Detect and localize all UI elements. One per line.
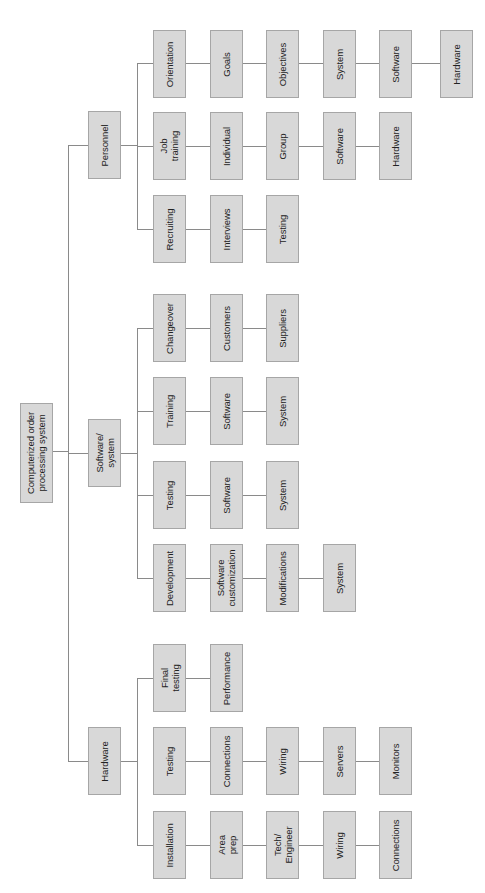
connector-line xyxy=(137,678,138,846)
node-label: Wiring xyxy=(334,832,345,858)
node-s-te-software: Software xyxy=(210,461,243,529)
node-h-testing: Testing xyxy=(153,727,186,795)
node-h-tech-engineer: Tech/ Engineer xyxy=(266,811,299,879)
node-label: System xyxy=(334,562,345,593)
node-s-d-system: System xyxy=(323,544,356,612)
node-label: System xyxy=(277,479,288,510)
node-label: Software xyxy=(390,46,401,83)
root-node: Computerized order processing system xyxy=(20,403,53,503)
node-p-j-hardware: Hardware xyxy=(379,112,412,180)
node-label: Goals xyxy=(221,52,232,76)
node-label: Suppliers xyxy=(277,309,288,348)
node-s-development: Development xyxy=(153,544,186,612)
node-p-group: Group xyxy=(266,112,299,180)
node-h-i-connections: Connections xyxy=(379,811,412,879)
connector-line xyxy=(186,678,210,679)
node-p-o-system: System xyxy=(323,30,356,98)
connector-line xyxy=(137,328,153,329)
node-h-area-prep: Area prep xyxy=(210,811,243,879)
node-p-j-software: Software xyxy=(323,112,356,180)
node-s-suppliers: Suppliers xyxy=(266,294,299,362)
connector-line xyxy=(137,845,153,846)
connector-line xyxy=(186,578,323,579)
node-h-i-wiring: Wiring xyxy=(323,811,356,879)
node-p-individual: Individual xyxy=(210,112,243,180)
node-p-recruiting: Recruiting xyxy=(153,195,186,263)
node-hardware: Hardware xyxy=(88,727,121,795)
node-label: Orientation xyxy=(164,41,175,86)
node-label: Software xyxy=(334,128,345,165)
node-s-testing: Testing xyxy=(153,461,186,529)
node-label: Performance xyxy=(221,651,232,704)
connector-line xyxy=(137,678,153,679)
node-label: Objectives xyxy=(277,42,288,85)
connector-line xyxy=(137,411,153,412)
node-label: Software xyxy=(221,393,232,430)
node-label: Final testing xyxy=(158,664,180,691)
root-node-label: Computerized order processing system xyxy=(26,412,48,494)
node-h-t-wiring: Wiring xyxy=(266,727,299,795)
connector-line xyxy=(137,578,153,579)
node-label: Changeover xyxy=(164,303,175,354)
node-label: System xyxy=(277,395,288,426)
connector-line xyxy=(121,145,137,146)
wbs-diagram: Computerized order processing system Per… xyxy=(0,0,485,893)
node-h-final-testing: Final testing xyxy=(153,644,186,712)
node-label: Group xyxy=(277,133,288,159)
node-p-goals: Goals xyxy=(210,30,243,98)
node-label: Connections xyxy=(390,819,401,871)
connector-line xyxy=(52,451,68,452)
node-s-te-system: System xyxy=(266,461,299,529)
node-label: Personnel xyxy=(99,124,110,166)
node-label: Testing xyxy=(164,480,175,509)
node-p-objectives: Objectives xyxy=(266,30,299,98)
node-p-o-software: Software xyxy=(379,30,412,98)
node-h-performance: Performance xyxy=(210,644,243,712)
node-label: Area prep xyxy=(215,835,237,855)
node-label: Job training xyxy=(158,131,180,161)
node-label: Wiring xyxy=(277,748,288,774)
connector-line xyxy=(137,495,153,496)
node-personnel: Personnel xyxy=(88,111,121,179)
node-label: Software customization xyxy=(216,550,238,607)
node-label: Software xyxy=(221,477,232,514)
node-label: Testing xyxy=(164,746,175,775)
node-label: Testing xyxy=(277,214,288,243)
node-p-job-training: Job training xyxy=(153,112,186,180)
node-label: Interviews xyxy=(221,208,232,250)
node-h-monitors: Monitors xyxy=(379,727,412,795)
node-s-changeover: Changeover xyxy=(153,294,186,362)
node-s-customers: Customers xyxy=(210,294,243,362)
connector-line xyxy=(68,453,88,454)
node-h-installation: Installation xyxy=(153,811,186,879)
connector-line xyxy=(121,453,137,454)
node-label: Hardware xyxy=(451,44,462,84)
node-software-system: Software/ system xyxy=(88,419,121,487)
node-label: Hardware xyxy=(390,126,401,166)
node-label: Tech/ Engineer xyxy=(272,826,294,863)
node-p-o-hardware: Hardware xyxy=(440,30,473,98)
node-s-modifications: Modifications xyxy=(266,544,299,612)
connector-line xyxy=(68,761,88,762)
node-label: Software/ system xyxy=(94,433,116,472)
connector-line xyxy=(68,145,88,146)
connector-line xyxy=(137,146,153,147)
node-label: Recruiting xyxy=(164,208,175,250)
connector-line xyxy=(137,229,153,230)
node-p-interviews: Interviews xyxy=(210,195,243,263)
node-s-t-system: System xyxy=(266,377,299,445)
node-label: Installation xyxy=(164,823,175,867)
node-label: Servers xyxy=(334,745,345,777)
node-label: System xyxy=(334,48,345,79)
node-label: Customers xyxy=(221,305,232,350)
node-label: Connections xyxy=(221,735,232,787)
node-label: Development xyxy=(164,551,175,606)
node-p-orientation: Orientation xyxy=(153,30,186,98)
connector-line xyxy=(137,328,138,579)
node-label: Hardware xyxy=(99,741,110,781)
node-h-servers: Servers xyxy=(323,727,356,795)
connector-line xyxy=(121,761,137,762)
node-p-r-testing: Testing xyxy=(266,195,299,263)
node-h-connections: Connections xyxy=(210,727,243,795)
node-s-t-software: Software xyxy=(210,377,243,445)
